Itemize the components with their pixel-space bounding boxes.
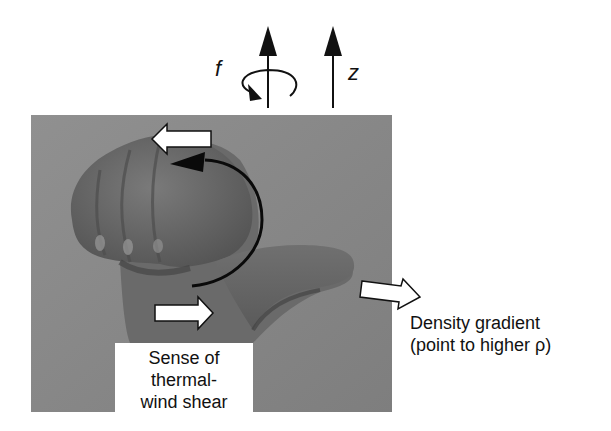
rotation-axis-icon <box>242 26 296 108</box>
shear-line1: Sense of <box>115 347 253 369</box>
density-gradient-line1: Density gradient <box>410 312 551 334</box>
shear-line2: thermal- <box>115 369 253 391</box>
rotation-label-f: f <box>215 56 221 82</box>
density-gradient-line2: (point to higher ρ) <box>410 334 551 356</box>
figure: f z Density gradient (point to higher ρ)… <box>0 0 611 431</box>
diagram-canvas <box>0 0 611 431</box>
shear-line3: wind shear <box>115 391 253 413</box>
thermal-wind-shear-label: Sense of thermal- wind shear <box>115 347 253 413</box>
density-gradient-label: Density gradient (point to higher ρ) <box>410 312 551 356</box>
thermal-wind-shear-label-box: Sense of thermal- wind shear <box>115 343 253 413</box>
z-axis-arrow-icon <box>324 26 342 108</box>
vertical-label-z: z <box>348 60 359 86</box>
